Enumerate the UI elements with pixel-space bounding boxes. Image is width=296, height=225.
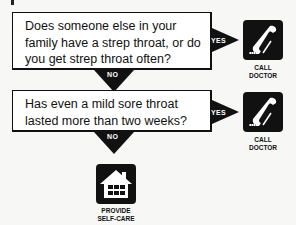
- yes-label-1: YES: [211, 37, 226, 44]
- crop-mark: [11, 0, 14, 5]
- call-doctor-caption-1: CALL DOCTOR: [238, 64, 288, 79]
- question-text-2: Has even a mild sore throat lasted more …: [25, 97, 187, 128]
- self-care-caption: PROVIDE SELF-CARE: [91, 207, 141, 222]
- question-text-1: Does someone else in your family have a …: [25, 19, 201, 66]
- question-box-1: Does someone else in your family have a …: [12, 12, 212, 70]
- yes-label-2: YES: [211, 109, 226, 116]
- no-label-1: NO: [107, 71, 119, 78]
- house-icon: [96, 164, 136, 204]
- no-label-2: NO: [107, 133, 119, 140]
- phone-icon: [243, 92, 283, 132]
- phone-icon: [243, 20, 283, 60]
- call-doctor-caption-2: CALL DOCTOR: [238, 136, 288, 151]
- question-box-2: Has even a mild sore throat lasted more …: [12, 90, 212, 132]
